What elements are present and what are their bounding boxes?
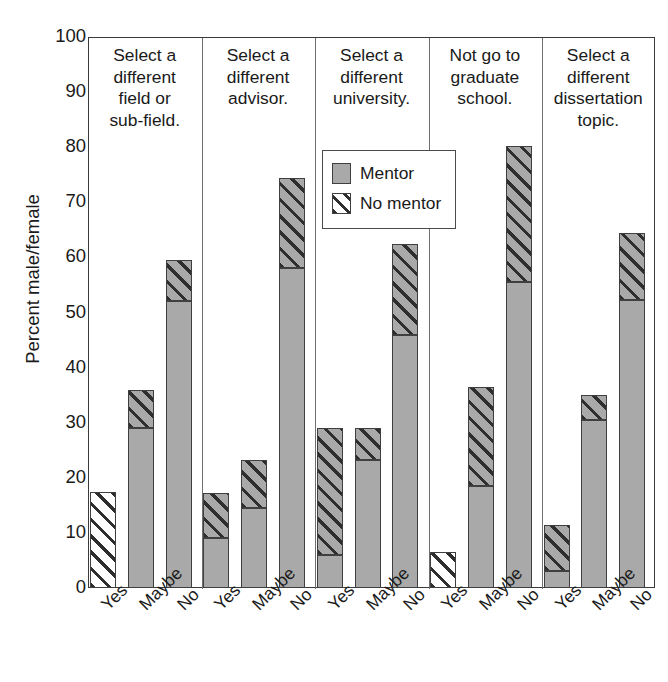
bar-no: [166, 260, 192, 588]
bar-segment-no-mentor: [279, 178, 305, 269]
bar-segment-no-mentor: [166, 260, 192, 301]
panel-caption-line: school.: [431, 88, 538, 110]
panel-caption-line: university.: [318, 88, 425, 110]
panel-caption: Select adifferentdissertationtopic.: [545, 45, 652, 131]
panel-caption-line: Not go to: [431, 45, 538, 67]
bar-maybe: [241, 460, 267, 588]
panel-caption-line: different: [545, 67, 652, 89]
bar-segment-no-mentor: [90, 492, 116, 588]
panel-caption-line: field or: [91, 88, 198, 110]
bar-segment-no-mentor: [317, 428, 343, 555]
y-axis-ticks: 1009080706050403020100: [40, 0, 86, 682]
bar-yes: [544, 525, 570, 588]
bar-no: [392, 244, 418, 588]
panel-caption-line: Select a: [545, 45, 652, 67]
bar-maybe: [128, 390, 154, 588]
chart-canvas: 1009080706050403020100 Percent male/fema…: [0, 0, 668, 682]
bar-segment-mentor: [468, 486, 494, 588]
bar-segment-mentor: [128, 428, 154, 588]
bar-yes: [203, 493, 229, 588]
panel-caption: Select adifferentadvisor.: [204, 45, 311, 110]
bar-segment-no-mentor: [468, 387, 494, 486]
bar-segment-mentor: [317, 555, 343, 588]
y-axis-title: Percent male/female: [22, 164, 44, 394]
panel-divider: [429, 38, 430, 589]
panel-caption-line: dissertation: [545, 88, 652, 110]
panel-caption-line: Select a: [91, 45, 198, 67]
bar-yes: [430, 552, 456, 588]
bar-segment-no-mentor: [203, 493, 229, 539]
bar-yes: [317, 428, 343, 588]
bar-segment-no-mentor: [355, 428, 381, 459]
bar-segment-no-mentor: [128, 390, 154, 429]
bar-segment-mentor: [506, 282, 532, 588]
bar-segment-no-mentor: [430, 552, 456, 588]
panel-caption-line: advisor.: [204, 88, 311, 110]
x-tick-label: No: [286, 584, 317, 615]
panel-caption-line: sub-field.: [91, 110, 198, 132]
bar-segment-no-mentor: [581, 395, 607, 420]
x-tick-label: No: [626, 584, 657, 615]
bar-maybe: [468, 387, 494, 588]
panel-caption-line: different: [204, 67, 311, 89]
legend-label-mentor: Mentor: [360, 163, 414, 184]
bar-segment-no-mentor: [619, 233, 645, 300]
x-tick-label: No: [513, 584, 544, 615]
bar-no: [279, 178, 305, 588]
y-tick-label: 10: [52, 523, 86, 542]
bar-maybe: [581, 395, 607, 588]
panel-caption: Select adifferentuniversity.: [318, 45, 425, 110]
bar-segment-mentor: [166, 301, 192, 588]
bar-segment-mentor: [241, 508, 267, 588]
panel-caption: Not go tograduateschool.: [431, 45, 538, 110]
bar-segment-no-mentor: [241, 460, 267, 508]
bar-segment-mentor: [392, 335, 418, 588]
bar-yes: [90, 492, 116, 588]
legend-item-mentor: Mentor: [332, 158, 455, 188]
legend-item-no-mentor: No mentor: [332, 188, 455, 218]
bar-segment-mentor: [581, 420, 607, 588]
legend: Mentor No mentor: [322, 150, 456, 229]
gray-square-swatch-icon: [332, 163, 351, 184]
panel-caption-line: different: [91, 67, 198, 89]
bar-segment-no-mentor: [506, 146, 532, 283]
bar-segment-mentor: [619, 300, 645, 588]
y-tick-label: 40: [52, 358, 86, 377]
bar-maybe: [355, 428, 381, 588]
panel-caption: Select adifferentfield orsub-field.: [91, 45, 198, 131]
panel-caption-line: Select a: [318, 45, 425, 67]
y-tick-label: 30: [52, 413, 86, 432]
x-tick-label: No: [173, 584, 204, 615]
bar-no: [619, 233, 645, 588]
y-tick-label: 60: [52, 247, 86, 266]
panel-caption-line: Select a: [204, 45, 311, 67]
bar-segment-no-mentor: [544, 525, 570, 572]
y-tick-label: 20: [52, 468, 86, 487]
bar-no: [506, 146, 532, 588]
y-tick-label: 50: [52, 303, 86, 322]
panel-caption-line: topic.: [545, 110, 652, 132]
legend-label-no-mentor: No mentor: [360, 193, 441, 214]
hatched-square-swatch-icon: [332, 193, 351, 214]
panel-divider: [542, 38, 543, 589]
bar-segment-mentor: [279, 268, 305, 588]
y-tick-label: 100: [52, 27, 86, 46]
y-tick-label: 80: [52, 137, 86, 156]
x-tick-label: No: [399, 584, 430, 615]
y-tick-label: 0: [52, 578, 86, 597]
bar-segment-mentor: [203, 538, 229, 588]
bar-segment-mentor: [355, 460, 381, 588]
bar-segment-no-mentor: [392, 244, 418, 335]
y-tick-label: 70: [52, 192, 86, 211]
panel-caption-line: graduate: [431, 67, 538, 89]
y-tick-label: 90: [52, 82, 86, 101]
panel-caption-line: different: [318, 67, 425, 89]
